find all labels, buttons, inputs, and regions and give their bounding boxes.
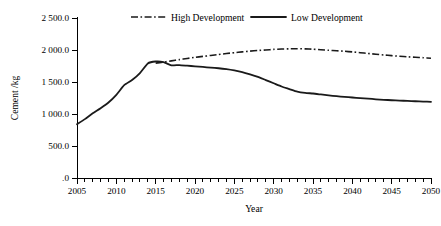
y-tick-label: .0 <box>62 173 69 183</box>
line-chart: .0500.01 000.01 500.02 000.02 500.0 2005… <box>0 0 441 226</box>
x-tick-label: 2025 <box>225 186 244 196</box>
x-tick-label: 2015 <box>146 186 165 196</box>
x-tick-label: 2005 <box>68 186 87 196</box>
y-tick-label: 1 500.0 <box>41 77 69 87</box>
y-tick-label: 500.0 <box>48 141 69 151</box>
x-axis-title: Year <box>245 203 263 214</box>
x-tick-label: 2050 <box>422 186 441 196</box>
x-tick-label: 2040 <box>343 186 362 196</box>
legend-label-high-development: High Development <box>171 12 245 23</box>
y-tick-label: 1 000.0 <box>41 109 69 119</box>
x-tick-label: 2030 <box>264 186 283 196</box>
chart-container: .0500.01 000.01 500.02 000.02 500.0 2005… <box>0 0 441 226</box>
x-tick-label: 2045 <box>382 186 401 196</box>
y-tick-label: 2 000.0 <box>41 45 69 55</box>
y-axis-title: Cement /kg <box>9 76 20 121</box>
x-tick-label: 2035 <box>304 186 323 196</box>
x-tick-label: 2010 <box>107 186 126 196</box>
x-tick-label: 2020 <box>186 186 205 196</box>
legend-label-low-development: Low Development <box>291 12 363 23</box>
y-tick-label: 2 500.0 <box>41 13 69 23</box>
